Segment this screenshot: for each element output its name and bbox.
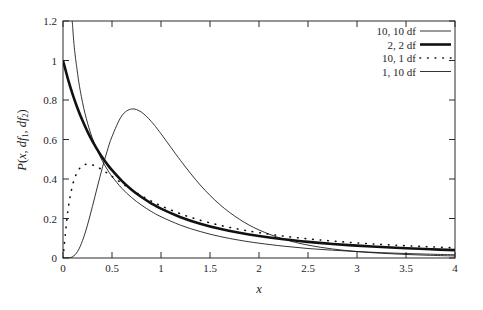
y-tick-label: 0 [52,252,58,264]
x-tick-label: 0.5 [105,262,119,274]
y-tick-label: 0.6 [43,134,57,146]
x-tick-label: 2 [256,262,262,274]
legend-label-1: 2, 2 df [388,39,417,51]
svg-text:P(x, df1, df2): P(x, df1, df2) [15,109,30,172]
chart-figure: 0 0.5 1 1.5 2 2.5 3 3.5 4 0 0.2 0.4 0.6 … [0,0,483,310]
x-tick-label: 2.5 [301,262,315,274]
x-tick-label: 1 [158,262,164,274]
x-tick-label: 1.5 [203,262,217,274]
y-tick-label: 1.2 [43,15,57,27]
x-tick-label: 3.5 [399,262,413,274]
y-axis-title-close: ) [15,109,29,113]
legend-label-3: 1, 10 df [382,66,416,78]
x-tick-label: 0 [60,262,66,274]
y-tick-label: 0.2 [43,213,57,225]
y-tick-label: 0.4 [43,173,57,185]
chart-canvas: 0 0.5 1 1.5 2 2.5 3 3.5 4 0 0.2 0.4 0.6 … [0,0,483,310]
legend-label-2: 10, 1 df [382,52,416,64]
y-tick-label: 1 [52,55,58,67]
x-axis-title: x [255,282,262,296]
y-tick-label: 0.8 [43,94,57,106]
y-axis-title: P(x, df1, df2) [15,109,30,172]
legend-label-0: 10, 10 df [377,25,417,37]
x-tick-label: 3 [354,262,360,274]
x-tick-label: 4 [452,262,458,274]
